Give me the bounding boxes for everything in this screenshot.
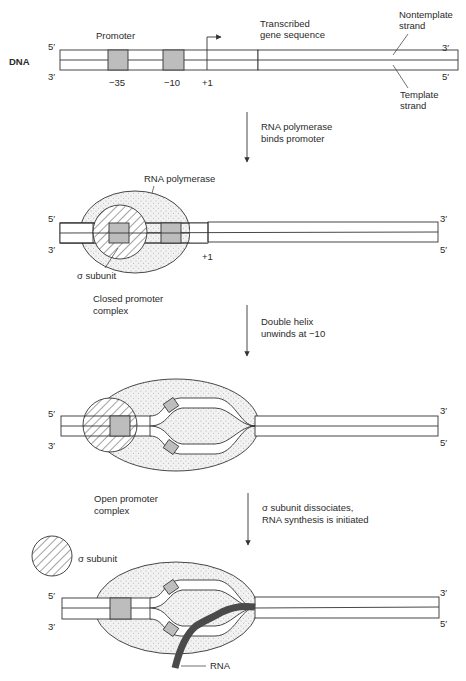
closed-complex-line1: Closed promoter <box>93 293 163 304</box>
open-complex-line2: complex <box>94 505 130 516</box>
five-prime-left: 5′ <box>48 213 55 224</box>
rna-label: RNA <box>210 660 231 671</box>
five-prime-right: 5′ <box>440 437 447 448</box>
step3-line1: σ subunit dissociates, <box>262 502 353 513</box>
polymerase-label: RNA polymerase <box>144 173 215 184</box>
panel-dna: DNA 5′ 3′ Promoter −35 −10 +1 Transcribe… <box>9 9 458 111</box>
minus35-box <box>110 416 130 436</box>
free-sigma-subunit-shape <box>32 536 72 576</box>
step1-line2: binds promoter <box>261 133 324 144</box>
three-prime-right: 3′ <box>442 42 449 53</box>
three-prime-right: 3′ <box>440 587 447 598</box>
nontemplate-label-line1: Nontemplate <box>399 9 453 20</box>
three-prime-right: 3′ <box>440 405 447 416</box>
three-prime-right: 3′ <box>440 213 447 224</box>
minus10-box <box>163 50 184 70</box>
three-prime-left: 3′ <box>48 244 55 255</box>
step2: Double helix unwinds at −10 <box>247 305 325 356</box>
five-prime-left: 5′ <box>48 41 55 52</box>
step3-line2: RNA synthesis is initiated <box>262 514 369 525</box>
plus1-label: +1 <box>202 77 213 88</box>
transcribed-label-line1: Transcribed <box>260 18 310 29</box>
sigma-label: σ subunit <box>77 270 116 281</box>
minus35-box <box>110 598 131 619</box>
minus35-label: −35 <box>109 77 125 88</box>
minus10-label: −10 <box>164 77 180 88</box>
five-prime-right: 5′ <box>440 244 447 255</box>
plus1-label: +1 <box>202 251 213 262</box>
three-prime-left: 3′ <box>48 621 55 632</box>
three-prime-left: 3′ <box>48 440 55 451</box>
panel-closed-complex: RNA polymerase 5′ 3′ 3′ 5′ +1 σ subunit … <box>48 173 447 316</box>
nontemplate-label-line2: strand <box>399 20 425 31</box>
three-prime-left: 3′ <box>48 71 55 82</box>
step2-line2: unwinds at −10 <box>261 328 325 339</box>
promoter-label: Promoter <box>96 30 135 41</box>
sigma-label: σ subunit <box>78 553 117 564</box>
step2-line1: Double helix <box>261 316 314 327</box>
minus35-box <box>108 50 128 70</box>
template-label-line1: Template <box>400 89 439 100</box>
transcription-start-arrow-icon <box>207 37 221 50</box>
transcription-initiation-diagram: DNA 5′ 3′ Promoter −35 −10 +1 Transcribe… <box>0 0 466 681</box>
panel-initiation: σ subunit 5′ 3′ 3′ 5′ RNA <box>32 536 447 671</box>
closed-complex-line2: complex <box>93 305 129 316</box>
dna-label: DNA <box>9 56 30 67</box>
template-label-line2: strand <box>400 100 426 111</box>
transcribed-label-line2: gene sequence <box>260 29 325 40</box>
step3: σ subunit dissociates, RNA synthesis is … <box>248 493 369 545</box>
five-prime-right: 5′ <box>440 618 447 629</box>
step1-line1: RNA polymerase <box>261 121 332 132</box>
open-complex-line1: Open promoter <box>94 493 158 504</box>
step1: RNA polymerase binds promoter <box>247 112 332 162</box>
five-prime-right: 5′ <box>442 71 449 82</box>
five-prime-left: 5′ <box>48 408 55 419</box>
five-prime-left: 5′ <box>48 590 55 601</box>
